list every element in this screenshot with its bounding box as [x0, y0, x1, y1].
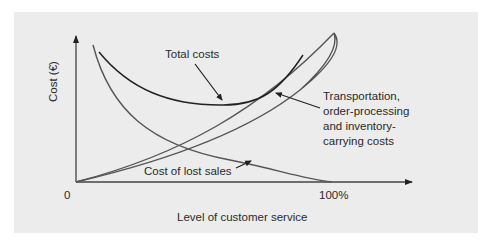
lost-sales-label: Cost of lost sales — [144, 164, 232, 178]
total-costs-arrow — [195, 64, 222, 100]
x-end-label: 100% — [319, 188, 348, 202]
transport-arrow — [276, 93, 320, 108]
y-axis-title: Cost (€) — [47, 61, 59, 102]
origin-label: 0 — [64, 188, 70, 202]
transport-costs-label: Transportation, order-processing and inv… — [323, 89, 409, 149]
total-costs-label: Total costs — [165, 47, 219, 61]
x-axis-title: Level of customer service — [177, 210, 307, 224]
